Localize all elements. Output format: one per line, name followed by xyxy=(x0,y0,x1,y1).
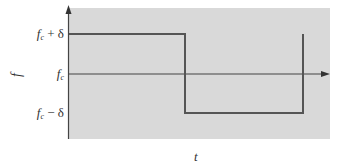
tick-label-fc-plus-delta: fc + δ xyxy=(4,27,64,42)
tick-label-fc-minus-delta: fc − δ xyxy=(4,106,64,121)
tick-label-fc: fc xyxy=(4,67,64,82)
tick-suffix: − δ xyxy=(44,105,64,120)
tick-sub: c xyxy=(60,73,64,82)
x-axis-label: t xyxy=(194,150,198,163)
fsk-frequency-diagram xyxy=(0,0,345,164)
tick-suffix: + δ xyxy=(44,26,64,41)
